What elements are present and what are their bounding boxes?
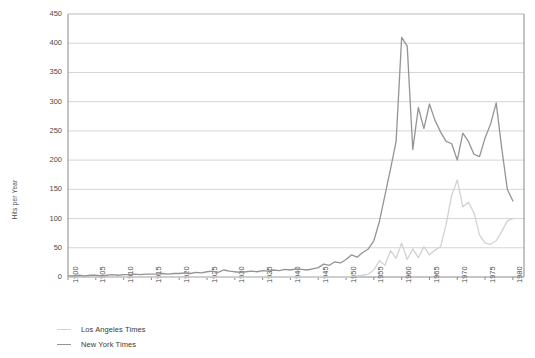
series-lines [68,37,513,277]
gridlines [68,14,524,248]
plot-area [0,0,535,358]
legend-swatch-icon [57,329,71,330]
legend-item-los-angeles-times: Los Angeles Times [57,322,146,337]
chart-container: Hits per Year 45040035030025020015010050… [0,0,535,358]
legend-swatch-icon [57,344,71,345]
chart-legend: Los Angeles Times New York Times [57,322,146,352]
legend-label: Los Angeles Times [81,325,146,334]
axis-frame [68,14,524,277]
legend-item-new-york-times: New York Times [57,337,146,352]
legend-label: New York Times [81,340,136,349]
